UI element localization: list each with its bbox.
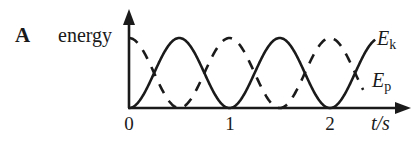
ek-legend-label: Ek bbox=[376, 27, 396, 52]
ek-series-line bbox=[129, 38, 375, 108]
x-tick-label: 1 bbox=[225, 113, 235, 134]
y-axis-arrow-icon bbox=[123, 9, 135, 25]
energy-time-chart: A energy 0 1 2 t/s Ek Ep bbox=[0, 0, 418, 141]
y-axis-label: energy bbox=[58, 24, 112, 47]
x-tick-label: 2 bbox=[325, 113, 335, 134]
ep-label-sub: p bbox=[384, 79, 391, 94]
x-tick-labels: 0 1 2 bbox=[124, 113, 335, 134]
ep-label-main: E bbox=[371, 69, 384, 91]
plot-area bbox=[129, 38, 375, 108]
x-axis-label: t/s bbox=[371, 112, 390, 134]
ep-series-line bbox=[129, 38, 363, 108]
x-axis-arrow-icon bbox=[395, 102, 411, 114]
ep-legend-label: Ep bbox=[371, 69, 391, 94]
ek-label-sub: k bbox=[389, 37, 396, 52]
x-tick-label: 0 bbox=[124, 113, 134, 134]
panel-label: A bbox=[15, 23, 31, 47]
ek-label-main: E bbox=[376, 27, 389, 49]
